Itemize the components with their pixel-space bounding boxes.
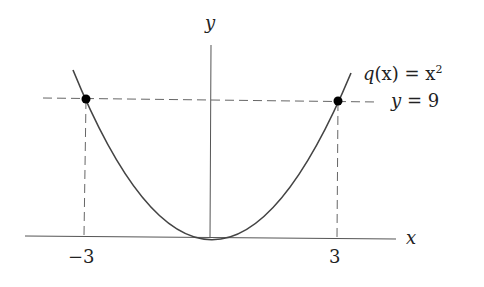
y-axis-label: y	[205, 12, 215, 33]
hline-var: y	[391, 90, 401, 111]
function-exponent: 2	[435, 63, 442, 76]
tick-label-3: 3	[329, 246, 340, 267]
vguide-pos3	[337, 102, 338, 238]
hline-label: y = 9	[391, 90, 439, 111]
point-3-9	[334, 97, 343, 106]
function-expr: (x) = x	[375, 63, 436, 84]
vguide-neg3	[84, 100, 86, 236]
function-name: q	[363, 63, 375, 84]
hline-eq: = 9	[401, 90, 439, 111]
tick-label-neg3: −3	[68, 246, 95, 267]
function-label: q(x) = x2	[363, 63, 442, 84]
parabola-curve	[73, 70, 351, 240]
x-axis-label: x	[406, 227, 416, 248]
point-neg3-9	[82, 95, 91, 104]
y-axis	[210, 45, 211, 238]
